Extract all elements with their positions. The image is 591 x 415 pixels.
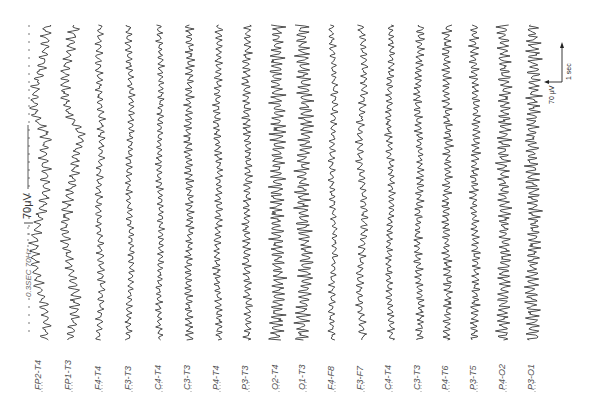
scale-bar: 1 sec 70 μV	[544, 42, 572, 104]
channel-label: O1-T3	[297, 364, 307, 390]
eeg-trace	[184, 25, 195, 340]
eeg-trace	[328, 25, 338, 340]
amplitude-scale-label: 70 μV	[548, 85, 556, 104]
channel-label: P4-T6	[440, 365, 450, 390]
channel-label: C4-T4	[153, 365, 163, 390]
eeg-figure: 0.3SEC 70Hz 70μV FP2-T4FP1-T3F4-T4F3-T3C…	[0, 0, 591, 415]
channel-label: FP2-T4	[33, 360, 43, 390]
arrow-left-icon	[544, 80, 549, 84]
eeg-trace	[60, 25, 85, 340]
eeg-trace	[242, 25, 253, 340]
eeg-trace	[442, 25, 454, 340]
channel-label: F4-T4	[93, 366, 103, 390]
eeg-traces-canvas: 0.3SEC 70Hz 70μV FP2-T4FP1-T3F4-T4F3-T3C…	[0, 0, 591, 415]
channel-label: P4-O2	[497, 364, 507, 390]
trace-group	[29, 25, 543, 340]
eeg-trace	[125, 25, 135, 340]
channel-label: P3-O1	[526, 364, 536, 390]
channel-label: C3-T3	[412, 365, 422, 390]
channel-label: P3-T3	[240, 365, 250, 390]
channel-label: C4-T4	[383, 365, 393, 390]
channel-label: FP1-T3	[63, 360, 73, 390]
eeg-trace	[468, 25, 481, 340]
time-scale-label: 1 sec	[565, 63, 572, 80]
eeg-trace	[294, 25, 315, 340]
eeg-trace	[384, 25, 395, 340]
channel-label: F3-T3	[123, 366, 133, 390]
eeg-trace	[95, 25, 106, 340]
eeg-trace	[212, 25, 223, 340]
channel-label: C3-T3	[182, 365, 192, 390]
channel-label-group: FP2-T4FP1-T3F4-T4F3-T3C4-T4C3-T3P4-T4P3-…	[33, 360, 536, 392]
channel-label: O2-T4	[270, 364, 280, 390]
eeg-trace	[413, 25, 424, 340]
channel-label: F4-F8	[326, 366, 336, 390]
eeg-trace	[355, 25, 368, 340]
header-annotation: 0.3SEC 70Hz 70μV	[21, 125, 33, 297]
eeg-trace	[268, 25, 287, 340]
arrow-up-icon	[560, 42, 564, 48]
settings-label: 0.3SEC 70Hz	[24, 249, 33, 297]
eeg-trace	[155, 25, 165, 340]
calibration-label: 70μV	[21, 192, 33, 219]
eeg-trace	[524, 25, 542, 340]
channel-label: P4-T4	[211, 365, 221, 390]
channel-label: P3-T5	[468, 364, 478, 390]
eeg-trace	[495, 25, 512, 340]
channel-label: F3-F7	[355, 365, 365, 390]
